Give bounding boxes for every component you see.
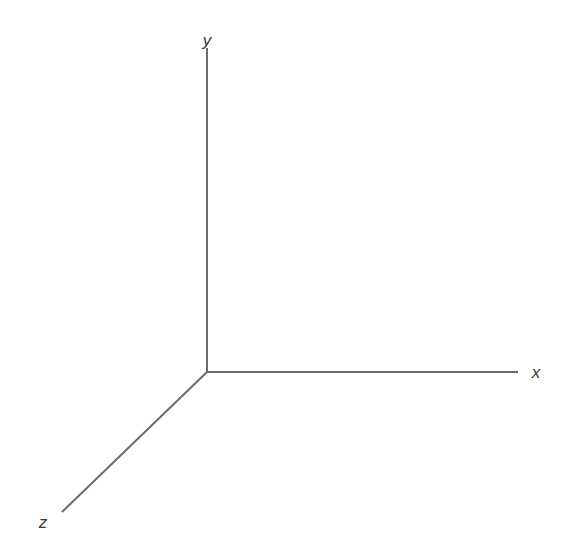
- axes-diagram: [0, 0, 576, 552]
- figure-canvas: y x z: [0, 0, 576, 552]
- x-axis-label: x: [532, 364, 541, 381]
- z-axis-line: [62, 372, 207, 512]
- z-axis-label: z: [39, 514, 48, 531]
- y-axis-label: y: [203, 32, 212, 49]
